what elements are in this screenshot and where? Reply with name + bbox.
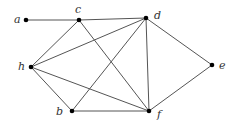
node-e xyxy=(210,63,215,68)
node-c xyxy=(77,18,82,23)
node-label-b: b xyxy=(56,105,63,118)
node-label-c: c xyxy=(75,3,81,16)
edge-d-e xyxy=(146,18,212,65)
edge-c-h xyxy=(31,20,79,67)
node-d xyxy=(144,16,149,21)
node-f xyxy=(147,109,152,114)
node-label-h: h xyxy=(18,60,25,73)
node-label-d: d xyxy=(154,9,161,22)
edge-b-d xyxy=(72,18,146,111)
node-h xyxy=(29,65,34,70)
labels: acdhebf xyxy=(14,3,226,121)
nodes xyxy=(24,16,215,114)
edge-h-b xyxy=(31,67,72,111)
edge-d-f xyxy=(146,18,149,111)
edge-e-f xyxy=(149,65,212,111)
edges xyxy=(26,18,212,111)
node-label-a: a xyxy=(14,13,21,26)
edge-h-d xyxy=(31,18,146,67)
node-label-e: e xyxy=(219,59,226,72)
node-a xyxy=(24,18,29,23)
node-b xyxy=(70,109,75,114)
edge-c-f xyxy=(79,20,149,111)
node-label-f: f xyxy=(156,108,163,121)
edge-c-d xyxy=(79,18,146,20)
graph-diagram: acdhebf xyxy=(0,0,237,131)
